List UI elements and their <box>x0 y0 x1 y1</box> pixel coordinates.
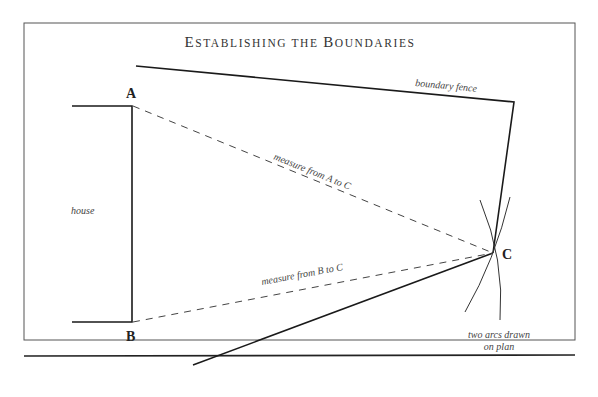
diagram-canvas: ESTABLISHING THE BOUNDARIES house bounda… <box>0 0 598 397</box>
point-a-label: A <box>126 86 137 101</box>
arcs-caption-line1: two arcs drawn <box>468 329 530 340</box>
boundary-fence-line <box>136 66 514 253</box>
point-b-label: B <box>126 329 135 344</box>
measure-b-c-label: measure from B to C <box>260 261 344 287</box>
bottom-rule <box>24 355 575 356</box>
arcs-caption-line2: on plan <box>484 341 514 352</box>
measure-b-c-line <box>133 253 493 322</box>
title-initial-e: E <box>184 34 195 50</box>
diagram-frame <box>24 23 575 340</box>
point-c-label: C <box>502 247 512 262</box>
title-part-2: OUNDARIES <box>335 37 416 49</box>
boundary-fence-label: boundary fence <box>415 77 478 94</box>
title-part-1: STABLISHING THE <box>195 37 323 49</box>
measure-a-c-label: measure from A to C <box>272 151 353 192</box>
measure-a-c-line <box>133 106 493 253</box>
house-label: house <box>71 205 95 216</box>
diagram-title: ESTABLISHING THE BOUNDARIES <box>184 34 415 50</box>
title-initial-b: B <box>323 34 335 50</box>
